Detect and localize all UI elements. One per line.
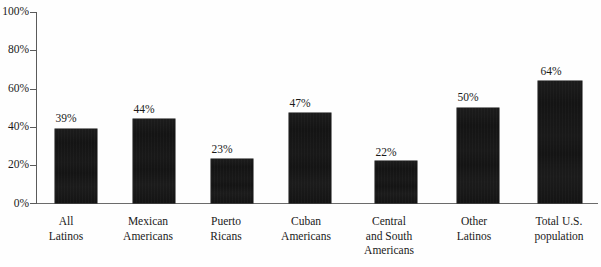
bar-value-label: 39% bbox=[40, 113, 92, 125]
x-axis-category-label: Other Latinos bbox=[438, 214, 510, 243]
label-line: Americans bbox=[348, 243, 430, 258]
bar-value-label: 47% bbox=[274, 98, 326, 110]
y-tick-label: 60% bbox=[0, 83, 29, 95]
label-line: Ricans bbox=[190, 229, 262, 244]
x-axis-category-label: All Latinos bbox=[36, 214, 96, 243]
label-line: Americans bbox=[268, 229, 344, 244]
x-axis-category-label: Puerto Ricans bbox=[190, 214, 262, 243]
y-tick-label: 40% bbox=[0, 121, 29, 133]
bar bbox=[538, 81, 582, 203]
bar bbox=[211, 159, 253, 203]
label-line: Mexican bbox=[108, 214, 188, 229]
label-line: population bbox=[518, 229, 600, 244]
label-line: and South bbox=[348, 229, 430, 244]
bar-value-label: 23% bbox=[196, 144, 248, 156]
y-axis-tick bbox=[30, 203, 37, 204]
bar-value-label: 50% bbox=[442, 92, 494, 104]
y-axis-labels: 100% 80% 60% 40% 20% 0% bbox=[0, 0, 29, 267]
x-axis-category-label: Cuban Americans bbox=[268, 214, 344, 243]
y-tick-label: 0% bbox=[0, 198, 29, 210]
bar-value-label: 22% bbox=[360, 147, 412, 159]
label-line: All bbox=[36, 214, 96, 229]
x-axis-category-label: Total U.S. population bbox=[518, 214, 600, 243]
label-line: Central bbox=[348, 214, 430, 229]
bar-value-label: 64% bbox=[524, 66, 578, 78]
x-axis-category-label: Mexican Americans bbox=[108, 214, 188, 243]
y-tick-label: 100% bbox=[0, 6, 29, 18]
x-axis-category-label: Central and South Americans bbox=[348, 214, 430, 258]
label-line: Puerto bbox=[190, 214, 262, 229]
x-axis-spine bbox=[36, 203, 598, 204]
bar bbox=[375, 161, 417, 203]
bar bbox=[133, 119, 175, 203]
y-tick-label: 80% bbox=[0, 44, 29, 56]
label-line: Other bbox=[438, 214, 510, 229]
label-line: Cuban bbox=[268, 214, 344, 229]
bar bbox=[55, 129, 97, 204]
label-line: Latinos bbox=[438, 229, 510, 244]
y-tick-label: 20% bbox=[0, 159, 29, 171]
label-line: Americans bbox=[108, 229, 188, 244]
bar bbox=[289, 113, 331, 203]
bar-value-label: 44% bbox=[118, 104, 170, 116]
label-line: Latinos bbox=[36, 229, 96, 244]
label-line: Total U.S. bbox=[518, 214, 600, 229]
bar bbox=[457, 108, 499, 204]
bar-chart: 100% 80% 60% 40% 20% 0% 39% 44% 23% 47% … bbox=[0, 0, 601, 267]
